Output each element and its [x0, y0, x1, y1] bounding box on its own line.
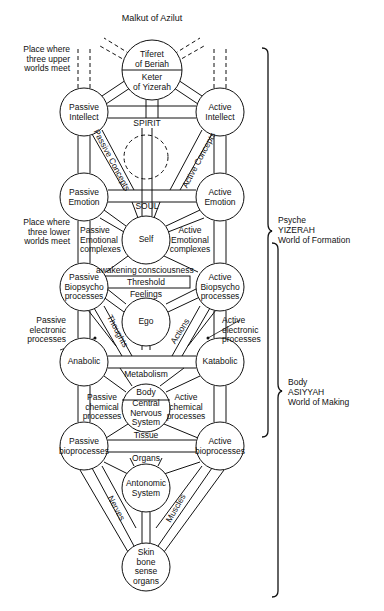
node-keter: Keter of Yizerah [133, 73, 171, 92]
node-skin-bone-sense-organs: Skin bone sense organs [133, 548, 159, 586]
braces [262, 48, 282, 597]
label-passive-electronic-processes: Passive electronic processes [18, 316, 66, 345]
node-ego: Ego [138, 317, 153, 327]
note-upper-worlds: Place where three upper worlds meet [6, 45, 70, 74]
node-active-emotion: Active Emotion [204, 188, 235, 207]
tree-of-life-diagram: Malkut of Azilut Place where three upper… [0, 0, 384, 611]
node-katabolic: Katabolic [203, 357, 238, 367]
node-active-intellect: Active Intellect [205, 103, 234, 122]
node-active-biopsycho: Active Biopsycho processes [200, 273, 239, 302]
label-tissue: Tissue [126, 431, 166, 441]
label-soul: SOUL [127, 202, 167, 212]
dashed-circle [124, 135, 168, 179]
node-passive-intellect: Passive Intellect [69, 103, 99, 122]
brace-label-psyche: Psyche YIZERAH World of Formation [278, 215, 350, 245]
note-lower-worlds: Place where three lower worlds meet [6, 218, 70, 247]
label-active-electronic-processes: Active electronic processes [222, 316, 261, 345]
node-passive-emotion: Passive Emotion [68, 188, 99, 207]
node-tiferet: Tiferet of Beriah [135, 50, 169, 69]
title-malkut: Malkut of Azilut [100, 14, 204, 24]
psyche-brace [262, 48, 272, 437]
label-awakening: awakening [96, 266, 137, 276]
node-central-nervous-system: Central Nervous System [130, 399, 162, 428]
label-active-chemical-processes: Active chemical processes [166, 393, 206, 422]
label-threshold: Threshold [102, 278, 190, 288]
label-feelings: Feelings [122, 290, 170, 300]
node-active-bioprocesses: Active bioprocesses [195, 437, 245, 456]
label-spirit: SPIRIT [127, 119, 167, 129]
label-metabolism: Metabolism [116, 370, 176, 380]
label-active-emotional-complexes: Active Emotional complexes [168, 226, 212, 255]
node-antonomic-system: Antonomic System [126, 479, 166, 498]
diagram-lines [0, 0, 384, 611]
body-brace [272, 243, 282, 597]
label-consciousness: consciousness [138, 266, 194, 276]
label-passive-emotional-complexes: Passive Emotional complexes [80, 226, 121, 255]
brace-label-body: Body ASIYYAH World of Making [288, 377, 349, 407]
node-passive-bioprocesses: Passive bioprocesses [59, 437, 109, 456]
node-passive-biopsycho: Passive Biopsycho processes [64, 273, 103, 302]
node-body: Body [136, 388, 155, 398]
node-self: Self [139, 235, 154, 245]
node-anabolic: Anabolic [68, 357, 101, 367]
label-organs: Organs [126, 454, 166, 464]
label-passive-chemical-processes: Passive chemical processes [82, 393, 122, 422]
